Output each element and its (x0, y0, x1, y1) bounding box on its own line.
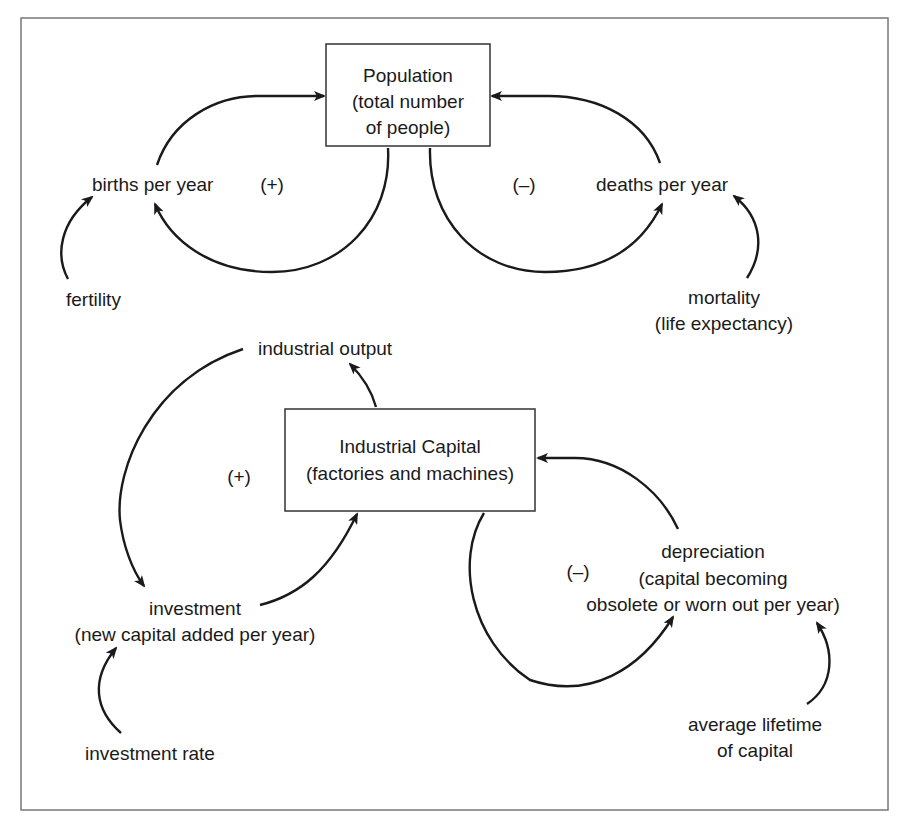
population-stock: Population (total number of people) (326, 44, 490, 146)
industrial-capital-title: Industrial Capital (339, 436, 481, 457)
births-per-year-label: births per year (92, 174, 214, 195)
industrial-capital-box (285, 409, 535, 511)
deaths-to-population-arrow (492, 96, 660, 163)
capital-depreciation-loop-polarity: (–) (566, 561, 589, 582)
industrial-capital-subtitle: (factories and machines) (306, 463, 514, 484)
capital-becoming-label: (capital becoming (639, 568, 788, 589)
output-to-investment-arrow (120, 349, 243, 586)
depreciation-to-capital-arrow (538, 458, 678, 529)
depreciation-label: depreciation (661, 541, 765, 562)
capital-investment-loop-polarity: (+) (227, 466, 251, 487)
population-subtitle-2: of people) (366, 117, 451, 138)
life-expectancy-label: (life expectancy) (655, 313, 793, 334)
births-to-population-arrow (157, 96, 324, 165)
population-title: Population (363, 65, 453, 86)
population-births-loop-polarity: (+) (260, 174, 284, 195)
average-lifetime-label: average lifetime (688, 714, 822, 735)
mortality-to-deaths-arrow (734, 196, 758, 278)
population-deaths-loop-polarity: (–) (512, 174, 535, 195)
population-subtitle-1: (total number (352, 91, 465, 112)
industrial-capital-stock: Industrial Capital (factories and machin… (285, 409, 535, 511)
deaths-per-year-label: deaths per year (596, 174, 729, 195)
investment-rate-label: investment rate (85, 743, 215, 764)
investment-to-capital-arrow (260, 514, 357, 605)
causal-loop-diagram: Population (total number of people) birt… (0, 0, 906, 826)
lifetime-to-depreciation-arrow (807, 623, 829, 704)
capital-to-output-arrow (350, 364, 376, 407)
fertility-to-births-arrow (61, 197, 92, 279)
population-to-deaths-arrow (430, 148, 662, 272)
population-to-births-arrow (155, 148, 388, 272)
investment-label: investment (149, 598, 242, 619)
industrial-output-label: industrial output (258, 338, 393, 359)
investment-rate-to-investment-arrow (99, 648, 121, 733)
obsolete-worn-out-label: obsolete or worn out per year) (586, 594, 839, 615)
mortality-label: mortality (688, 287, 760, 308)
of-capital-label: of capital (717, 740, 793, 761)
fertility-label: fertility (66, 289, 121, 310)
new-capital-added-label: (new capital added per year) (75, 624, 316, 645)
